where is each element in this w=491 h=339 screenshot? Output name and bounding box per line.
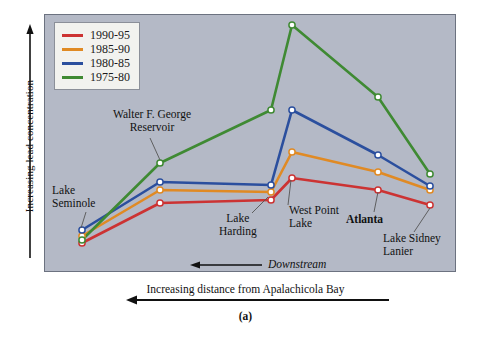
- legend-swatch-1980-85: [62, 62, 83, 65]
- point-label-lake-sidney-lanier: Lake Sidney Lanier: [383, 232, 441, 258]
- x-axis-label: Increasing distance from Apalachicola Ba…: [0, 283, 491, 295]
- data-point-1980-85-West Point Lake: [289, 107, 295, 113]
- point-label-walter-f-george-reservoir: Walter F. George Reservoir: [113, 108, 191, 134]
- point-label-walter-f-george-line1: Walter F. George: [113, 108, 191, 121]
- leader-atlanta: [374, 192, 378, 212]
- point-label-lake-seminole-line1: Lake: [52, 184, 95, 197]
- legend-swatch-1975-80: [62, 76, 83, 79]
- y-axis-label: Increasing lead concentration: [23, 31, 35, 261]
- point-label-walter-f-george-line2: Reservoir: [113, 121, 191, 134]
- leader-west-point-lake: [288, 180, 291, 205]
- legend: 1990-95 1985-90 1980-85 1975-80: [54, 22, 140, 90]
- data-point-1980-85-Lake Sidney Lanier: [427, 183, 433, 189]
- downstream-annotation: Downstream: [268, 258, 326, 270]
- data-point-1975-80-Walter F. George Reservoir: [157, 160, 163, 166]
- legend-item-1990-95: 1990-95: [62, 28, 130, 42]
- leader-lake-sidney-lanier: [414, 208, 430, 232]
- point-label-west-point-lake-line1: West Point: [289, 204, 339, 217]
- legend-label-1975-80: 1975-80: [90, 70, 130, 84]
- downstream-arrow: [190, 261, 262, 268]
- data-point-1990-95-Lake Harding: [268, 197, 274, 203]
- leader-lake-seminole: [81, 212, 86, 228]
- x-axis-arrow: [126, 296, 389, 305]
- point-label-lake-seminole-line2: Seminole: [52, 197, 95, 210]
- data-point-1980-85-Atlanta: [375, 152, 381, 158]
- point-label-lake-harding: Lake Harding: [219, 212, 257, 238]
- legend-item-1980-85: 1980-85: [62, 56, 130, 70]
- point-label-lake-harding-line2: Harding: [219, 225, 257, 238]
- data-point-1975-80-Atlanta: [375, 94, 381, 100]
- data-point-1975-80-Lake Seminole: [79, 237, 85, 243]
- data-point-1975-80-Lake Sidney Lanier: [427, 171, 433, 177]
- data-point-1985-90-Walter F. George Reservoir: [157, 187, 163, 193]
- data-point-1975-80-West Point Lake: [289, 22, 295, 28]
- figure-caption: (a): [0, 310, 491, 322]
- legend-item-1985-90: 1985-90: [62, 42, 130, 56]
- data-point-1985-90-Lake Harding: [268, 189, 274, 195]
- leader-walter-f-george: [150, 138, 160, 160]
- point-label-lake-harding-line1: Lake: [219, 212, 257, 225]
- point-label-atlanta-line1: Atlanta: [346, 213, 383, 226]
- legend-label-1990-95: 1990-95: [90, 28, 130, 42]
- data-point-1990-95-Lake Sidney Lanier: [427, 202, 433, 208]
- data-point-1985-90-Atlanta: [375, 169, 381, 175]
- legend-item-1975-80: 1975-80: [62, 70, 130, 84]
- figure-a: Increasing lead concentration 1990-95 19…: [0, 0, 491, 339]
- point-label-atlanta: Atlanta: [346, 213, 383, 226]
- point-label-west-point-lake-line2: Lake: [289, 217, 339, 230]
- point-label-lake-sidney-lanier-line1: Lake Sidney: [383, 232, 441, 245]
- legend-swatch-1985-90: [62, 48, 83, 51]
- legend-swatch-1990-95: [62, 34, 83, 37]
- data-point-1990-95-West Point Lake: [289, 175, 295, 181]
- point-label-west-point-lake: West Point Lake: [289, 204, 339, 230]
- point-label-lake-seminole: Lake Seminole: [52, 184, 95, 210]
- data-point-1985-90-West Point Lake: [289, 149, 295, 155]
- legend-label-1980-85: 1980-85: [90, 56, 130, 70]
- data-point-1975-80-Lake Harding: [268, 107, 274, 113]
- data-point-1980-85-Lake Harding: [268, 182, 274, 188]
- legend-label-1985-90: 1985-90: [90, 42, 130, 56]
- point-label-lake-sidney-lanier-line2: Lanier: [383, 245, 441, 258]
- data-point-1980-85-Walter F. George Reservoir: [157, 179, 163, 185]
- data-point-1990-95-Walter F. George Reservoir: [157, 200, 163, 206]
- data-point-1980-85-Lake Seminole: [79, 227, 85, 233]
